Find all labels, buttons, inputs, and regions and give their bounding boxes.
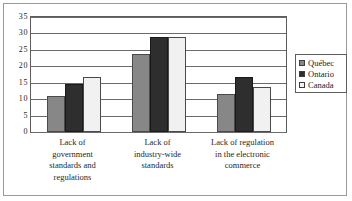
x-axis-label-line: standards and	[24, 160, 121, 172]
x-axis-label-line: industry-wide	[109, 149, 206, 161]
x-axis-label: Lack ofindustry-widestandards	[109, 137, 206, 172]
bars-layer	[31, 17, 286, 132]
legend: QuébecOntarioCanada	[295, 54, 347, 93]
legend-item-label: Ontario	[308, 69, 334, 79]
x-axis-label-line: Lack of	[109, 137, 206, 149]
y-axis-tick-label: 25	[2, 46, 28, 54]
bar-chart: 35302520151050 Lack ofgovernmentstandard…	[0, 0, 352, 201]
x-axis-label: Lack ofgovernmentstandards andregulation…	[24, 137, 121, 183]
bar-group	[47, 17, 101, 132]
x-axis-label: Lack of regulationin the electroniccomme…	[194, 137, 291, 172]
y-axis: 35302520151050	[0, 16, 28, 133]
y-axis-tick-label: 35	[2, 13, 28, 21]
bar[interactable]	[47, 96, 65, 132]
legend-item[interactable]: Canada	[299, 79, 344, 90]
legend-swatch-icon	[299, 82, 305, 88]
y-axis-tick-label: 5	[2, 112, 28, 120]
bar[interactable]	[217, 94, 235, 132]
x-axis-label-line: in the electronic	[194, 149, 291, 161]
x-axis-label-line: commerce	[194, 160, 291, 172]
bar-group	[217, 17, 271, 132]
bar[interactable]	[150, 37, 168, 132]
legend-item[interactable]: Ontario	[299, 68, 344, 79]
bar[interactable]	[83, 77, 101, 132]
y-axis-tick-label: 20	[2, 62, 28, 70]
bar[interactable]	[132, 54, 150, 132]
x-axis-label-line: government	[24, 149, 121, 161]
x-axis-label-line: Lack of	[24, 137, 121, 149]
y-axis-tick-label: 0	[2, 128, 28, 136]
y-axis-tick-label: 15	[2, 79, 28, 87]
gridline	[31, 132, 286, 133]
legend-swatch-icon	[299, 60, 305, 66]
bar[interactable]	[253, 87, 271, 132]
bar[interactable]	[235, 77, 253, 132]
legend-item[interactable]: Québec	[299, 57, 344, 68]
y-axis-tick-label: 30	[2, 29, 28, 37]
bar[interactable]	[168, 37, 186, 132]
x-axis-label-line: regulations	[24, 172, 121, 184]
bar[interactable]	[65, 84, 83, 132]
legend-item-label: Canada	[308, 80, 334, 90]
x-axis-category-labels: Lack ofgovernmentstandards andregulation…	[30, 137, 287, 193]
x-axis-label-line: standards	[109, 160, 206, 172]
y-axis-tick-label: 10	[2, 95, 28, 103]
x-axis-label-line: Lack of regulation	[194, 137, 291, 149]
legend-item-label: Québec	[308, 58, 334, 68]
legend-swatch-icon	[299, 71, 305, 77]
bar-group	[132, 17, 186, 132]
